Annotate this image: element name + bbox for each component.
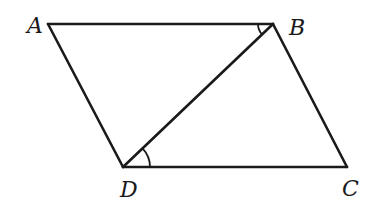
vertex-label-a: A [25,13,43,38]
diagonal-bd [123,24,273,167]
side-bc [273,24,347,167]
vertex-label-d: D [119,177,138,202]
angle-mark-b [258,24,262,34]
vertex-label-c: C [342,176,359,201]
parallelogram-diagram: A B D C [0,0,385,208]
vertex-label-b: B [288,15,305,40]
side-da [48,24,123,167]
angle-mark-d [143,148,151,167]
